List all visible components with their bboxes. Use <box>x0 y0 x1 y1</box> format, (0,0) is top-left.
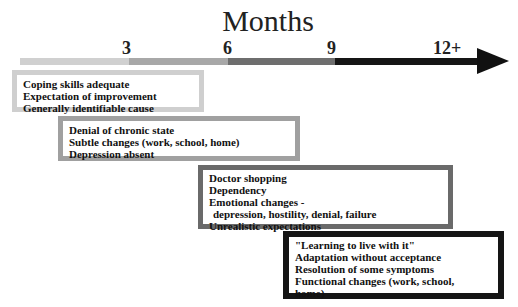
phase-line: Coping skills adequate <box>23 78 193 90</box>
phase-line: Generally identifiable cause <box>23 102 193 114</box>
phase-box-early: Coping skills adequate Expectation of im… <box>12 70 204 112</box>
timeline-segment-9-12 <box>335 58 480 65</box>
phase-box-12-plus: "Learning to live with it" Adaptation wi… <box>283 231 504 299</box>
phase-line: Dependency <box>209 184 442 196</box>
phase-line: Expectation of improvement <box>23 90 193 102</box>
timeline-segment-6-9 <box>228 58 335 65</box>
diagram-title: Months <box>0 4 518 38</box>
phase-line: "Learning to live with it" <box>295 239 492 251</box>
tick-9: 9 <box>327 38 336 59</box>
tick-6: 6 <box>223 38 232 59</box>
phase-line: Doctor shopping <box>209 172 442 184</box>
tick-12-plus: 12+ <box>433 38 461 59</box>
phase-line: home) <box>295 287 492 299</box>
phase-line: Depression absent <box>69 148 289 160</box>
timeline-segment-3-6 <box>129 58 228 65</box>
phase-line: Denial of chronic state <box>69 124 289 136</box>
phase-line: Emotional changes - <box>209 196 442 208</box>
phase-line: Resolution of some symptoms <box>295 263 492 275</box>
phase-line: Adaptation without acceptance <box>295 251 492 263</box>
phase-box-3-6: Denial of chronic state Subtle changes (… <box>58 116 300 161</box>
timeline-segment-0-3 <box>20 58 129 65</box>
phase-line: depression, hostility, denial, failure <box>209 208 442 220</box>
phase-box-6-9: Doctor shopping Dependency Emotional cha… <box>198 165 453 229</box>
tick-3: 3 <box>122 38 131 59</box>
arrow-right-icon <box>477 48 509 74</box>
phase-line: Subtle changes (work, school, home) <box>69 136 289 148</box>
phase-line: Functional changes (work, school, <box>295 275 492 287</box>
